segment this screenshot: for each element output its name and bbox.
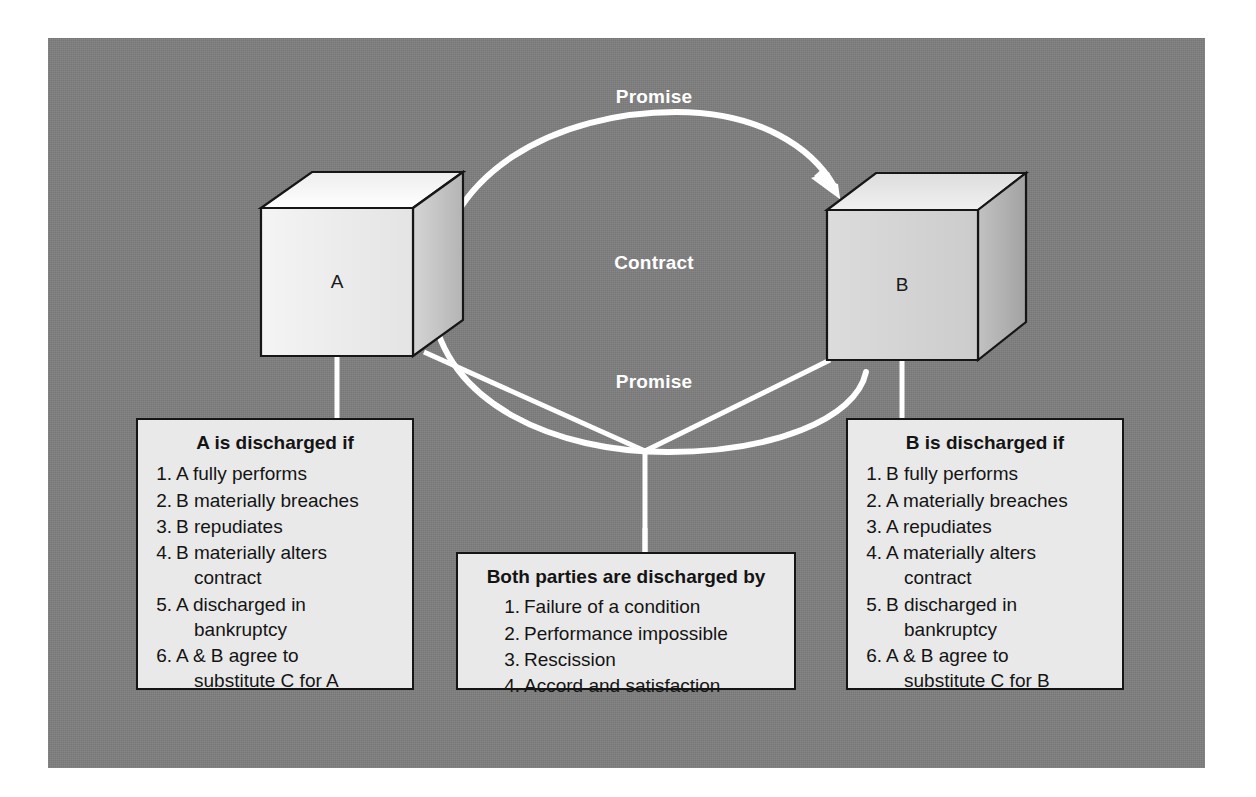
list-item: B repudiates [150, 514, 400, 539]
diagram-canvas: Promise Contract Promise A B A is discha… [0, 0, 1256, 797]
list-item: B discharged inbankruptcy [860, 592, 1110, 643]
list-item-continuation: substitute C for A [176, 668, 400, 693]
list-item-continuation: contract [176, 565, 400, 590]
discharge-box-both-title: Both parties are discharged by [470, 564, 782, 589]
discharge-box-b-list: B fully performsA materially breachesA r… [860, 461, 1110, 693]
edge-label-promise-bottom: Promise [616, 371, 692, 393]
list-item: Accord and satisfaction [470, 673, 782, 698]
discharge-box-both-list: Failure of a conditionPerformance imposs… [470, 594, 782, 698]
list-item: A & B agree tosubstitute C for A [150, 643, 400, 694]
center-label-contract: Contract [614, 252, 694, 274]
list-item: A repudiates [860, 514, 1110, 539]
list-item: A materially breaches [860, 488, 1110, 513]
discharge-box-b: B is discharged if B fully performsA mat… [846, 418, 1124, 690]
list-item-continuation: bankruptcy [176, 617, 400, 642]
list-item-continuation: bankruptcy [886, 617, 1110, 642]
list-item: Failure of a condition [470, 594, 782, 619]
list-item: Performance impossible [470, 621, 782, 646]
list-item: B fully performs [860, 461, 1110, 486]
list-item: A materially alterscontract [860, 540, 1110, 591]
list-item: A fully performs [150, 461, 400, 486]
list-item-continuation: substitute C for B [886, 668, 1110, 693]
discharge-box-both: Both parties are discharged by Failure o… [456, 552, 796, 690]
cube-b-label: B [896, 274, 909, 296]
list-item-continuation: contract [886, 565, 1110, 590]
list-item: A & B agree tosubstitute C for B [860, 643, 1110, 694]
cube-a-label: A [331, 271, 344, 293]
discharge-box-a-list: A fully performsB materially breachesB r… [150, 461, 400, 693]
list-item: A discharged inbankruptcy [150, 592, 400, 643]
list-item: Rescission [470, 647, 782, 672]
discharge-box-a-title: A is discharged if [150, 430, 400, 455]
discharge-box-b-title: B is discharged if [860, 430, 1110, 455]
edge-label-promise-top: Promise [616, 86, 692, 108]
discharge-box-a: A is discharged if A fully performsB mat… [136, 418, 414, 690]
list-item: B materially breaches [150, 488, 400, 513]
list-item: B materially alterscontract [150, 540, 400, 591]
